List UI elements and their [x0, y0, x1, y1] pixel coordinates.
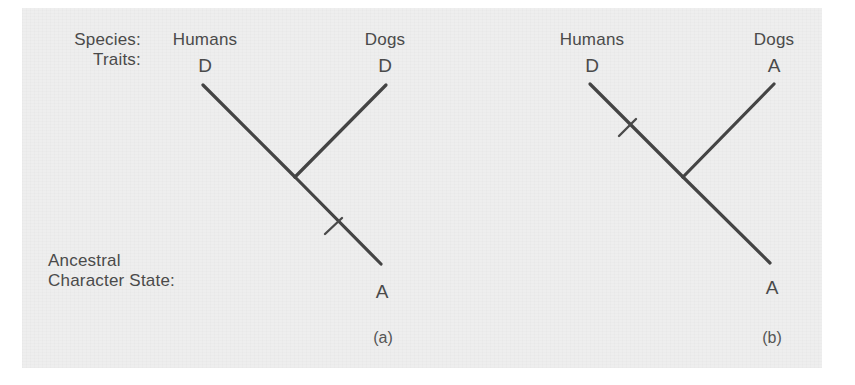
- tree-b-humans-branch: [590, 84, 683, 177]
- tree-a-change-mark: [325, 218, 342, 234]
- tree-b-branches: [590, 84, 774, 263]
- tree-a-dogs-branch: [295, 85, 386, 177]
- figure-canvas: Species: Traits: Ancestral Character Sta…: [0, 0, 855, 385]
- tree-lines: [0, 0, 855, 385]
- tree-b-root-branch: [683, 177, 770, 263]
- tree-b-dogs-branch: [683, 84, 774, 177]
- tree-a-humans-branch: [203, 85, 295, 177]
- tree-a-branches: [203, 85, 386, 264]
